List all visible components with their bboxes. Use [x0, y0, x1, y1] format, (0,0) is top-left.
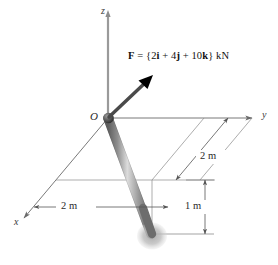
z-axis-label: z: [101, 6, 105, 16]
dimension-label-x: 2 m: [61, 201, 77, 212]
plane-diagonal-line-left: [152, 118, 204, 180]
force-units: kN: [216, 50, 229, 61]
figure-canvas: z y x O 2 m 2 m 1 m F = {2i + 4j + 10k} …: [0, 0, 278, 265]
origin-label: O: [90, 111, 98, 122]
x-axis-label: x: [14, 217, 18, 227]
dim-line-y-2m: [176, 118, 228, 180]
plane-diagonal-line-right: [200, 118, 252, 180]
dimension-label-y: 2 m: [200, 151, 216, 162]
force-vector-label: F = {2i + 4j + 10k} kN: [128, 51, 229, 62]
diagram-svg: [0, 0, 278, 265]
force-vector-arrow: [109, 75, 153, 117]
y-axis-label: y: [262, 110, 266, 120]
force-k-coefficient: 10: [192, 50, 203, 61]
z-axis-arrowhead: [105, 10, 110, 17]
dimension-label-z: 1 m: [185, 201, 201, 212]
